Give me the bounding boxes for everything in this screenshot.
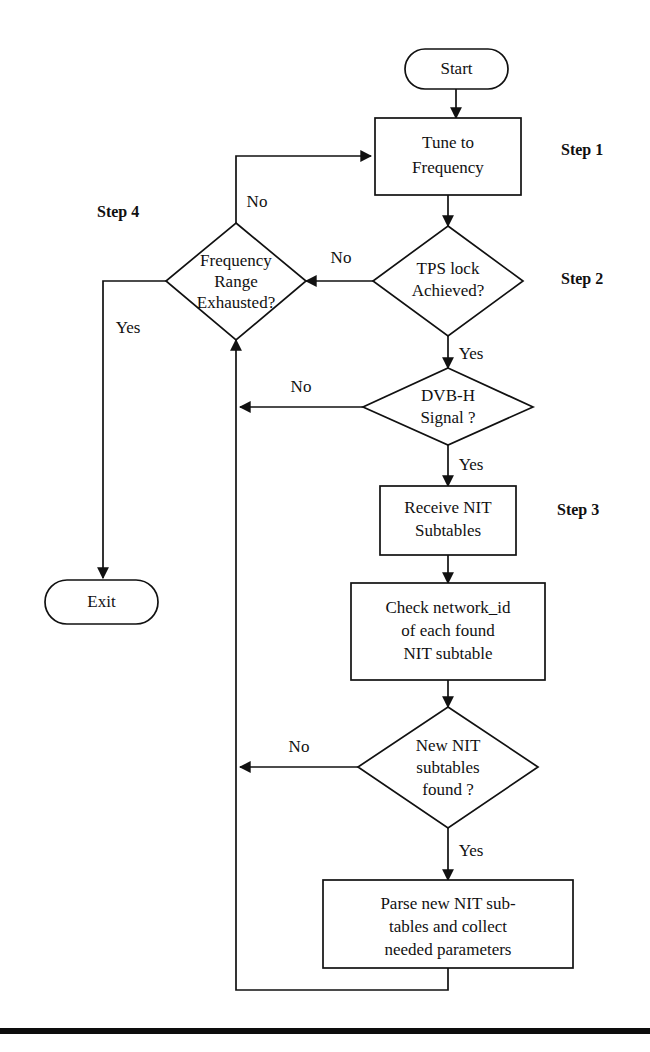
step-label-1: Step 1 bbox=[561, 141, 603, 159]
newnit-label-line1: New NIT bbox=[416, 736, 481, 755]
node-tune-to-frequency: Tune to Frequency bbox=[375, 118, 521, 195]
parsenit-label-line3: needed parameters bbox=[385, 940, 512, 959]
dvbh-shape bbox=[363, 368, 533, 445]
flowchart-canvas: Start Tune to Frequency TPS lock Achieve… bbox=[0, 0, 650, 1052]
checknetworkid-label-line2: of each found bbox=[401, 621, 495, 640]
freqexhausted-label-line1: Frequency bbox=[200, 251, 272, 270]
edge-label-freqexhausted-yes: Yes bbox=[116, 318, 141, 337]
parsenit-label-line1: Parse new NIT sub- bbox=[380, 894, 516, 913]
edge-label-dvbh-yes: Yes bbox=[459, 455, 484, 474]
exit-label: Exit bbox=[87, 592, 116, 611]
checknetworkid-label-line3: NIT subtable bbox=[404, 644, 493, 663]
edge-label-newnit-no: No bbox=[289, 737, 310, 756]
tpslock-label-line1: TPS lock bbox=[417, 259, 480, 278]
tune-label-line2: Frequency bbox=[412, 158, 484, 177]
bottom-divider bbox=[0, 1028, 650, 1034]
start-label: Start bbox=[440, 59, 472, 78]
node-start: Start bbox=[405, 49, 508, 89]
edge-label-freqexhausted-no: No bbox=[247, 192, 268, 211]
step-label-4: Step 4 bbox=[97, 203, 139, 221]
node-receive-nit-subtables: Receive NIT Subtables bbox=[380, 486, 516, 555]
step-label-2: Step 2 bbox=[561, 270, 603, 288]
node-frequency-range-exhausted: Frequency Range Exhausted? bbox=[166, 223, 306, 340]
edge-label-tpslock-no: No bbox=[331, 248, 352, 267]
tune-label-line1: Tune to bbox=[422, 133, 474, 152]
dvbh-label-line1: DVB-H bbox=[421, 386, 475, 405]
node-exit: Exit bbox=[45, 580, 158, 624]
edge-freqexhausted-no-to-tune bbox=[236, 156, 371, 223]
edge-label-newnit-yes: Yes bbox=[459, 841, 484, 860]
node-parse-new-nit-subtables: Parse new NIT sub- tables and collect ne… bbox=[323, 880, 573, 968]
newnit-label-line2: subtables bbox=[416, 758, 479, 777]
receivenit-label-line1: Receive NIT bbox=[404, 498, 492, 517]
node-new-nit-subtables-found: New NIT subtables found ? bbox=[358, 707, 538, 828]
tpslock-label-line2: Achieved? bbox=[412, 281, 485, 300]
tune-shape bbox=[375, 118, 521, 195]
node-check-network-id: Check network_id of each found NIT subta… bbox=[351, 583, 545, 680]
node-dvbh-signal: DVB-H Signal ? bbox=[363, 368, 533, 445]
checknetworkid-label-line1: Check network_id bbox=[385, 598, 511, 617]
step-label-3: Step 3 bbox=[557, 501, 599, 519]
freqexhausted-label-line3: Exhausted? bbox=[197, 293, 275, 312]
flowchart-page: Start Tune to Frequency TPS lock Achieve… bbox=[0, 0, 650, 1052]
node-tps-lock-achieved: TPS lock Achieved? bbox=[373, 226, 523, 336]
edge-label-tpslock-yes: Yes bbox=[459, 344, 484, 363]
dvbh-label-line2: Signal ? bbox=[420, 408, 475, 427]
newnit-label-line3: found ? bbox=[422, 780, 473, 799]
freqexhausted-label-line2: Range bbox=[214, 272, 257, 291]
receivenit-label-line2: Subtables bbox=[415, 521, 481, 540]
edge-label-dvbh-no: No bbox=[291, 377, 312, 396]
parsenit-label-line2: tables and collect bbox=[389, 917, 507, 936]
